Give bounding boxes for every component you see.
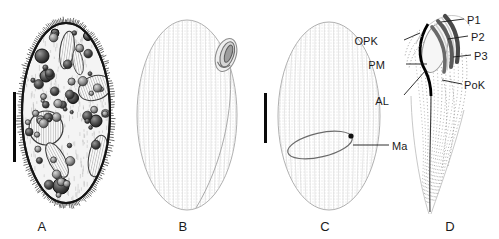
body-contour — [431, 110, 464, 214]
granule — [89, 126, 93, 130]
granule — [63, 107, 67, 111]
kinety-row — [435, 53, 458, 202]
label-al: AL — [363, 95, 389, 107]
panel-letter-d: D — [438, 219, 462, 234]
granule — [51, 157, 57, 163]
granule — [68, 78, 75, 85]
granule — [63, 60, 72, 69]
granule — [63, 180, 70, 187]
panel-letter-b: B — [171, 219, 195, 234]
label-pm: PM — [359, 59, 385, 71]
scale-bar-a — [13, 92, 16, 162]
granule — [25, 120, 30, 125]
panel-a — [0, 0, 130, 239]
granule — [44, 180, 53, 189]
granule — [88, 72, 92, 76]
label-p3: P3 — [474, 50, 488, 62]
granule — [25, 128, 33, 136]
granule — [65, 90, 74, 99]
granule — [36, 157, 42, 163]
scale-bar-c — [264, 93, 267, 143]
granule — [67, 143, 72, 148]
body-contour — [411, 96, 429, 214]
label-p1: P1 — [467, 14, 481, 26]
panel-b — [130, 0, 270, 239]
granule — [41, 94, 47, 100]
granule — [56, 193, 61, 198]
granule — [39, 119, 48, 128]
granule — [50, 87, 59, 96]
label-p2: P2 — [471, 31, 485, 43]
granule — [85, 119, 90, 124]
granule — [42, 101, 49, 108]
granule — [54, 99, 62, 107]
panel-a-drawing — [0, 0, 130, 239]
kinety-row — [432, 51, 450, 202]
granule — [35, 146, 41, 152]
granule — [49, 33, 58, 42]
panel-letter-a: A — [30, 219, 54, 234]
kinety-row — [414, 46, 423, 205]
granule — [35, 49, 49, 63]
somatic-kineties — [414, 46, 467, 205]
granule — [52, 113, 61, 122]
panel-letter-c: C — [313, 219, 337, 234]
granule — [102, 111, 108, 117]
granule — [89, 91, 94, 96]
granule — [91, 140, 100, 149]
granule — [52, 170, 61, 179]
granule — [93, 84, 101, 92]
axial-line — [430, 96, 431, 212]
granule — [76, 44, 84, 52]
granule — [78, 77, 87, 86]
label-opk: OPK — [352, 35, 378, 47]
granule — [72, 31, 77, 36]
granule — [70, 110, 73, 113]
kinety-row — [438, 54, 467, 201]
granule — [34, 132, 39, 137]
panel-b-drawing — [130, 0, 270, 239]
kinety-row — [437, 53, 463, 201]
granule — [32, 110, 38, 116]
figure-plate: MaP1P2P3OPKPMALPoK ABCD — [0, 0, 499, 239]
postoral-kineties — [442, 76, 454, 168]
granule — [48, 118, 52, 122]
granule — [45, 69, 53, 77]
label-pok: PoK — [464, 79, 485, 91]
granule — [84, 49, 93, 58]
granule — [34, 80, 43, 89]
granule — [66, 157, 75, 166]
granule — [91, 106, 98, 113]
label-ma: Ma — [392, 140, 407, 152]
